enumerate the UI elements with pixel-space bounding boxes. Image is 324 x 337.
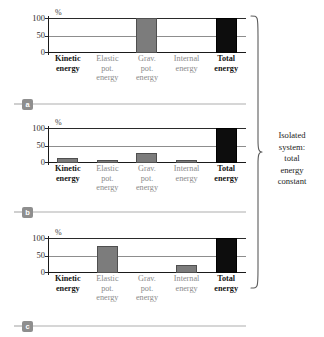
bar-internal-b [176, 160, 197, 163]
category-labels-b: Kinetic energy Elastic pot. energy Grav.… [48, 164, 246, 193]
cat-line2: pot. [128, 64, 166, 74]
cat-line2: energy [207, 284, 245, 294]
bars-c [48, 238, 246, 273]
grouping-brace-icon [249, 14, 263, 290]
cat-line2: energy [207, 174, 245, 184]
marker-rule-left-a [14, 103, 22, 104]
bar-slot-kinetic-a [48, 18, 88, 53]
category-labels-c: Kinetic energy Elastic pot. energy Grav.… [48, 274, 246, 303]
y-tick-100-b: 100 [32, 124, 45, 133]
category-label-grav-c: Grav. pot. energy [127, 274, 167, 303]
category-label-internal-a: Internal energy [167, 54, 207, 83]
cat-line2: pot. [89, 284, 127, 294]
y-tick-50-b: 50 [37, 141, 46, 150]
marker-rule-right-c [33, 325, 246, 326]
bar-slot-internal-c [167, 238, 207, 273]
cat-line2: energy [168, 284, 206, 294]
category-label-kinetic-c: Kinetic energy [48, 274, 88, 303]
category-label-total-c: Total energy [206, 274, 246, 303]
plot-area-a: 100 50 0 [48, 18, 246, 53]
cat-line2: energy [49, 284, 87, 294]
cat-line2: energy [49, 64, 87, 74]
cat-line2: energy [168, 174, 206, 184]
cat-line1: Total [207, 274, 245, 284]
bar-grav-b [136, 153, 157, 164]
cat-line2: energy [168, 64, 206, 74]
cat-line2: pot. [89, 174, 127, 184]
plot-area-c: 100 50 0 [48, 238, 246, 273]
cat-line1: Grav. [128, 164, 166, 174]
bar-slot-grav-c [127, 238, 167, 273]
cat-line2: pot. [128, 174, 166, 184]
cat-line3: energy [128, 73, 166, 83]
category-label-elastic-a: Elastic pot. energy [88, 54, 128, 83]
isolated-system-caption: Isolated system: total energy constant [262, 130, 322, 188]
panel-marker-b: b [22, 207, 33, 218]
bar-slot-kinetic-b [48, 128, 88, 163]
bar-slot-total-b [206, 128, 246, 163]
category-label-grav-a: Grav. pot. energy [127, 54, 167, 83]
bar-slot-internal-b [167, 128, 207, 163]
bar-total-c [216, 238, 237, 273]
panel-marker-a: a [22, 99, 33, 110]
bar-slot-grav-a [127, 18, 167, 53]
cat-line1: Kinetic [49, 54, 87, 64]
y-tick-50-a: 50 [37, 31, 46, 40]
cat-line3: energy [128, 293, 166, 303]
bar-slot-elastic-c [88, 238, 128, 273]
bar-slot-total-c [206, 238, 246, 273]
category-label-total-a: Total energy [206, 54, 246, 83]
cat-line3: energy [89, 293, 127, 303]
y-tick-50-c: 50 [37, 251, 46, 260]
category-label-elastic-c: Elastic pot. energy [88, 274, 128, 303]
cat-line3: energy [89, 73, 127, 83]
cat-line1: Grav. [128, 54, 166, 64]
marker-rule-right-b [33, 211, 246, 212]
bar-slot-elastic-a [88, 18, 128, 53]
chart-panel-c: % 100 50 0 [0, 228, 258, 337]
bar-grav-a [136, 18, 157, 53]
category-label-kinetic-b: Kinetic energy [48, 164, 88, 193]
bar-elastic-b [97, 160, 118, 164]
cat-line1: Internal [168, 164, 206, 174]
bar-total-a [216, 18, 237, 53]
chart-panel-a: % 100 50 0 [0, 8, 258, 114]
cat-line1: Kinetic [49, 164, 87, 174]
caption-line-4: energy [262, 165, 322, 177]
caption-line-1: Isolated [262, 130, 322, 142]
y-tick-100-a: 100 [32, 14, 45, 23]
cat-line1: Grav. [128, 274, 166, 284]
panel-marker-row-c: c [14, 320, 246, 332]
marker-rule-left-c [14, 325, 22, 326]
cat-line1: Internal [168, 54, 206, 64]
cat-line3: energy [128, 183, 166, 193]
chart-panel-b: % 100 50 0 [0, 118, 258, 222]
marker-rule-right-a [33, 103, 246, 104]
cat-line1: Kinetic [49, 274, 87, 284]
bar-total-b [216, 128, 237, 163]
category-label-grav-b: Grav. pot. energy [127, 164, 167, 193]
caption-line-3: total [262, 153, 322, 165]
caption-line-5: constant [262, 176, 322, 188]
energy-bar-chart-figure: % 100 50 0 [0, 0, 324, 337]
bar-slot-kinetic-c [48, 238, 88, 273]
marker-rule-left-b [14, 211, 22, 212]
panel-marker-row-a: a [14, 98, 246, 110]
bar-slot-grav-b [127, 128, 167, 163]
bars-a [48, 18, 246, 53]
cat-line2: pot. [89, 64, 127, 74]
y-axis-unit-c: % [55, 229, 62, 237]
bar-slot-internal-a [167, 18, 207, 53]
category-labels-a: Kinetic energy Elastic pot. energy Grav.… [48, 54, 246, 83]
category-label-total-b: Total energy [206, 164, 246, 193]
bar-elastic-c [97, 246, 118, 273]
y-axis-unit-a: % [55, 9, 62, 17]
cat-line2: energy [49, 174, 87, 184]
caption-line-2: system: [262, 142, 322, 154]
cat-line2: pot. [128, 284, 166, 294]
cat-line1: Total [207, 164, 245, 174]
cat-line1: Elastic [89, 164, 127, 174]
cat-line3: energy [89, 183, 127, 193]
plot-area-b: 100 50 0 [48, 128, 246, 163]
y-tick-100-c: 100 [32, 234, 45, 243]
